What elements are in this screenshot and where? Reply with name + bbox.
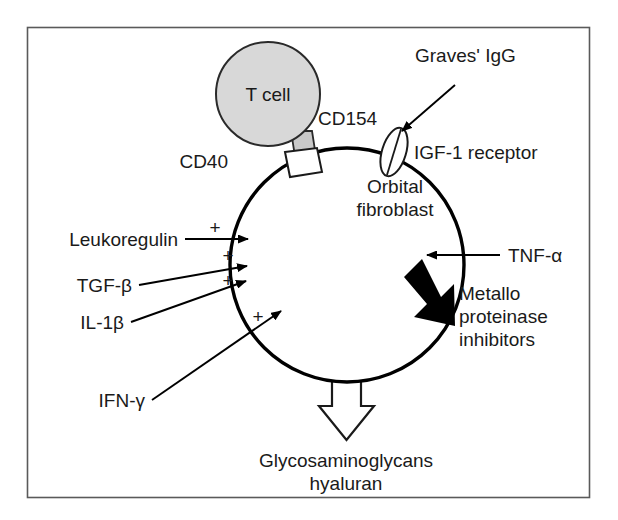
glycosaminoglycans-label-line2: hyaluran: [310, 473, 383, 494]
signaling-diagram: Orbital fibroblast T cell CD154 CD40 IGF…: [0, 0, 618, 520]
leukoregulin-plus: +: [209, 217, 220, 238]
cd154-label: CD154: [318, 108, 378, 129]
figure-root: Orbital fibroblast T cell CD154 CD40 IGF…: [0, 0, 618, 520]
orbital-fibroblast-label-line1: Orbital: [367, 176, 423, 197]
glycosaminoglycans-label-line1: Glycosaminoglycans: [259, 450, 433, 471]
t-cell-label: T cell: [245, 84, 290, 105]
ifn-gamma-plus: +: [252, 306, 263, 327]
orbital-fibroblast-label-line2: fibroblast: [356, 199, 434, 220]
metalloproteinase-label-line1: Metallo: [459, 283, 520, 304]
graves-igg-label: Graves' IgG: [415, 45, 516, 66]
orbital-fibroblast-cell: [230, 148, 464, 382]
ifn-gamma-label: IFN-γ: [99, 390, 146, 411]
igf1-receptor-label: IGF-1 receptor: [414, 142, 538, 163]
tgf-beta-label: TGF-β: [77, 275, 132, 296]
metalloproteinase-label-line2: proteinase: [459, 306, 548, 327]
il-1-beta-label: IL-1β: [80, 312, 124, 333]
tnf-alpha-label: TNF-α: [508, 245, 562, 266]
leukoregulin-label: Leukoregulin: [69, 229, 178, 250]
cd40-receptor: [285, 148, 322, 177]
tgf-beta-plus: +: [222, 245, 233, 266]
cd40-label: CD40: [179, 151, 228, 172]
il-1-beta-plus: +: [222, 270, 233, 291]
metalloproteinase-label-line3: inhibitors: [459, 329, 535, 350]
